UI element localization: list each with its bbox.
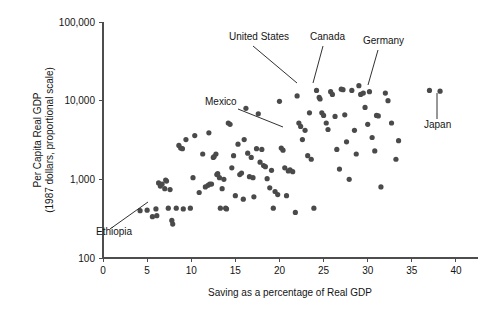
data-point (197, 190, 202, 195)
data-point (389, 120, 394, 125)
x-tick-label: 35 (406, 265, 418, 276)
x-axis-title: Saving as a percentage of Real GDP (208, 287, 372, 298)
annotation-label: Mexico (205, 96, 237, 107)
y-tick-label: 10,000 (64, 95, 95, 106)
data-point (153, 206, 158, 211)
data-point (356, 83, 361, 88)
data-point (396, 138, 401, 143)
y-axis-title-line1: Per Capita Real GDP (32, 92, 43, 187)
data-point (235, 142, 240, 147)
data-point (271, 206, 276, 211)
data-point (145, 208, 150, 213)
data-point (200, 151, 205, 156)
annotation-label: Ethiopia (96, 226, 133, 237)
data-point (290, 169, 295, 174)
y-axis-title-line2: (1987 dollars, proportional scale) (44, 67, 55, 213)
x-tick-label: 10 (186, 265, 198, 276)
data-point (437, 89, 442, 94)
data-point (150, 214, 155, 219)
data-point (209, 181, 214, 186)
data-point (347, 177, 352, 182)
data-point (250, 175, 255, 180)
data-point (361, 90, 366, 95)
x-tick-label: 15 (230, 265, 242, 276)
data-point (314, 88, 319, 93)
data-point (337, 166, 342, 171)
annotation-label: Germany (363, 35, 404, 46)
annotation-label: Japan (424, 119, 451, 130)
data-point (218, 206, 223, 211)
annotation-label: Canada (310, 31, 345, 42)
data-point (372, 148, 377, 153)
data-point (330, 92, 335, 97)
data-point (251, 194, 256, 199)
data-point (263, 164, 268, 169)
data-point (334, 147, 339, 152)
annotation-leader-line (253, 46, 297, 83)
data-point (243, 106, 248, 111)
annotation-leader-line (238, 109, 283, 127)
annotation-label: United States (229, 31, 289, 42)
scatter-plot-canvas: 0510152025303540 1001,00010,000100,000 E… (0, 0, 501, 313)
x-axis-ticks: 0510152025303540 (100, 258, 462, 276)
data-point (256, 111, 261, 116)
data-point (376, 113, 381, 118)
data-point (370, 135, 375, 140)
data-point (229, 165, 234, 170)
data-point (267, 185, 272, 190)
data-point (385, 98, 390, 103)
annotation-leader-line (368, 50, 378, 85)
x-tick-label: 0 (100, 265, 106, 276)
data-point (269, 168, 274, 173)
data-point (275, 192, 280, 197)
data-point (362, 105, 367, 110)
data-point (192, 133, 197, 138)
x-tick-label: 25 (318, 265, 330, 276)
data-point (164, 178, 169, 183)
data-point (167, 187, 172, 192)
data-point (221, 177, 226, 182)
data-point (188, 206, 193, 211)
data-point (183, 137, 188, 142)
x-tick-label: 40 (450, 265, 462, 276)
data-point (344, 139, 349, 144)
data-point (245, 151, 250, 156)
data-point (317, 96, 322, 101)
data-point (378, 184, 383, 189)
data-point (239, 171, 244, 176)
data-points-layer (137, 83, 442, 227)
data-point (302, 128, 307, 133)
data-point (367, 89, 372, 94)
data-point (254, 146, 259, 151)
annotation-leader-line (313, 46, 323, 83)
data-point (309, 157, 314, 162)
data-point (180, 146, 185, 151)
data-point (277, 99, 282, 104)
y-tick-label: 100 (78, 253, 95, 264)
data-point (174, 206, 179, 211)
data-point (332, 114, 337, 119)
axes (103, 22, 478, 258)
x-tick-label: 30 (362, 265, 374, 276)
data-point (383, 90, 388, 95)
data-point (342, 112, 347, 117)
data-point (365, 122, 370, 127)
y-tick-label: 100,000 (59, 17, 96, 28)
data-point (307, 110, 312, 115)
data-point (154, 213, 159, 218)
data-point (233, 193, 238, 198)
data-point (393, 157, 398, 162)
data-point (181, 206, 186, 211)
data-point (241, 197, 246, 202)
data-point (265, 176, 270, 181)
data-point (206, 130, 211, 135)
data-point (227, 122, 232, 127)
scatter-plot-figure: 0510152025303540 1001,00010,000100,000 E… (0, 0, 501, 313)
data-point (352, 128, 357, 133)
data-point (340, 87, 345, 92)
data-point (190, 175, 195, 180)
x-tick-label: 20 (274, 265, 286, 276)
data-point (224, 206, 229, 211)
data-point (354, 151, 359, 156)
annotation-leader-line (110, 202, 148, 229)
